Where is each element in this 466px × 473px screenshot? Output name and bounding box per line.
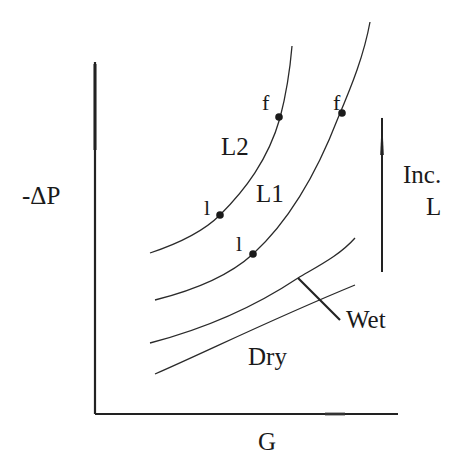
label-curve-L1: L1 (256, 180, 284, 207)
arrow-up-head (380, 117, 384, 155)
increasing-L-label-line1: Inc. (403, 161, 441, 188)
axes (94, 62, 399, 415)
pressure-drop-diagram: -ΔP G l f l f L2 L1 Wet Dry Inc. L (0, 0, 466, 473)
point-L2-loading (216, 211, 224, 219)
label-curve-dry: Dry (248, 343, 287, 370)
increasing-L-label-line2: L (426, 193, 441, 220)
label-L2-flooding: f (262, 90, 270, 115)
label-L1-flooding: f (333, 90, 341, 115)
label-L1-loading: l (236, 231, 242, 256)
x-axis-arrow-shaft-thick (325, 413, 345, 416)
label-curve-wet: Wet (346, 306, 386, 333)
x-axis-label: G (258, 428, 276, 455)
y-axis-label: -ΔP (22, 182, 60, 209)
y-axis-arrow-shaft-thick (94, 64, 97, 150)
increasing-L-arrow (380, 117, 384, 272)
label-curve-L2: L2 (221, 133, 249, 160)
point-L2-flooding (275, 113, 283, 121)
label-L2-loading: l (204, 195, 210, 220)
wet-leader-line (298, 278, 340, 320)
point-L1-loading (249, 250, 257, 258)
